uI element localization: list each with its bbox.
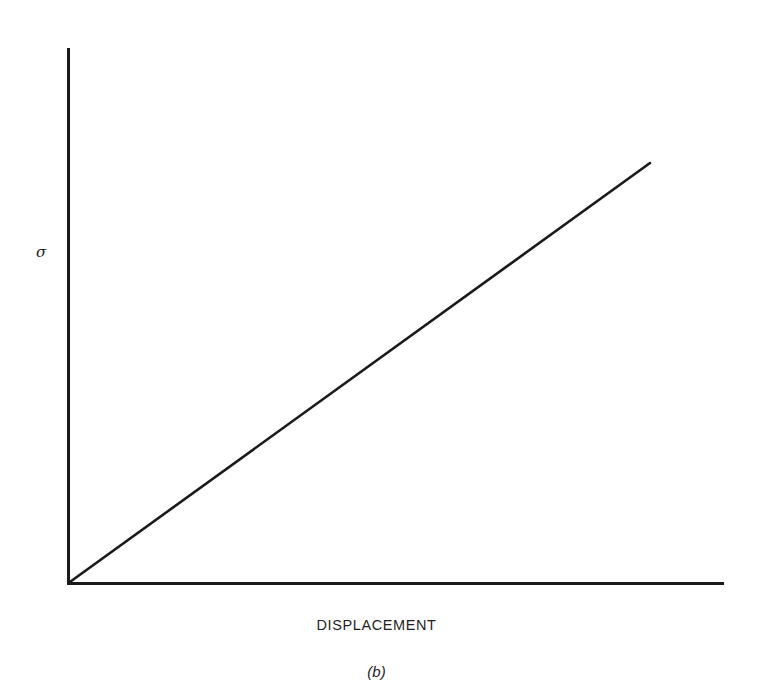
x-axis-label: DISPLACEMENT [0,617,759,633]
figure-caption: (b) [0,663,759,680]
plot-area [0,0,759,697]
y-axis-label: σ [36,245,46,260]
figure-container: σ DISPLACEMENT (b) [0,0,759,697]
plot-background [0,0,759,697]
